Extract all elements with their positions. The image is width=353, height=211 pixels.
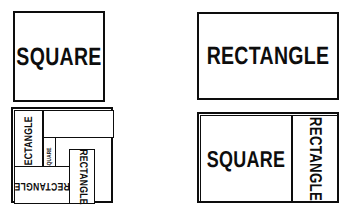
rectangle-label-top-right: RECTANGLE [207,44,330,69]
square-cell-bottom-right: SQUARE [200,115,292,202]
square-label-bottom-right: SQUARE [207,147,286,170]
rectangle-cell-bottom-right: RECTANGLE [292,115,338,202]
square-label-tiny: SQUARE [47,147,53,168]
blank-cell-bottom-left [43,110,114,138]
composite-box-bottom-left: RECTANGLE SQUARE RECTANGLE RECTANGLE [11,107,113,203]
rectangle-box-top-right: RECTANGLE [197,12,339,100]
rectangle-label-bottom-right: RECTANGLE [307,116,324,200]
rectangle-label-bottom: RECTANGLE [14,180,70,191]
figure-canvas: SQUARE RECTANGLE SQUARE RECTANGLE RECTAN… [0,0,353,211]
rectangle-cell-bottom: RECTANGLE [14,166,70,204]
square-label-top-left: SQUARE [16,44,101,69]
rectangle-label-right: RECTANGLE [77,149,88,205]
rectangle-label-left: RECTANGLE [23,116,34,172]
square-box-top-left: SQUARE [13,11,105,102]
composite-box-bottom-right: SQUARE RECTANGLE [197,112,339,203]
rectangle-cell-right: RECTANGLE [69,149,95,204]
